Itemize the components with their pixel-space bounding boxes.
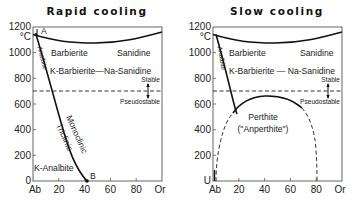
- x-tick-40: 40: [79, 184, 91, 195]
- x-tick-or: Or: [154, 184, 166, 195]
- label-k-barbierite: K-Barbierite — Na-Sanidine: [229, 66, 335, 76]
- y-tick-400: 400: [194, 124, 211, 135]
- label-perthite: Perthite: [248, 112, 278, 122]
- x-tick-80: 80: [131, 184, 143, 195]
- label-sanidine: Sanidine: [300, 48, 334, 58]
- label-k-analbite: K-Analbite: [34, 163, 74, 173]
- perthite-solvus-left-dashed: [216, 113, 233, 181]
- x-tick-20: 20: [53, 184, 65, 195]
- y-tick-800: 800: [194, 73, 211, 84]
- y-tick-200: 200: [14, 150, 31, 161]
- x-tick-60: 60: [105, 184, 117, 195]
- label-k-barbierite: K-Barbierite—Na-Sanidine: [50, 66, 151, 76]
- x-tick-60: 60: [285, 184, 297, 195]
- label-pseudostable: Pseudostable: [300, 98, 340, 105]
- chart-title-slow: Slow cooling: [230, 5, 324, 17]
- y-tick-600: 600: [194, 99, 211, 110]
- x-tick-or: Or: [334, 184, 346, 195]
- label-anperthite: ("Anperthite"): [237, 124, 288, 134]
- y-tick-200: 200: [194, 150, 211, 161]
- x-tick-ab: Ab: [209, 184, 222, 195]
- y-unit: °C: [200, 31, 211, 42]
- y-tick-400: 400: [14, 124, 31, 135]
- rapid-cooling-chart: Rapid cooling 1200 °C 1000 800 600 400 2…: [9, 5, 166, 195]
- point-b: [85, 179, 89, 183]
- label-barbierite: Barbierite: [51, 48, 88, 58]
- x-tick-80: 80: [311, 184, 323, 195]
- label-sanidine: Sanidine: [117, 48, 151, 58]
- label-analbite: Analbite: [217, 46, 228, 71]
- label-b: B: [90, 171, 96, 181]
- x-tick-ab: Ab: [29, 184, 42, 195]
- label-barbierite: Barbierite: [229, 48, 266, 58]
- label-stable: Stable: [141, 76, 160, 83]
- phase-diagrams: Rapid cooling 1200 °C 1000 800 600 400 2…: [0, 0, 360, 203]
- point-a: [34, 33, 37, 36]
- perthite-solvus-solid: [233, 96, 302, 113]
- label-analbite: Analbite: [37, 46, 50, 71]
- chart-title-rapid: Rapid cooling: [46, 5, 147, 17]
- y-tick-600: 600: [14, 99, 31, 110]
- perthite-solvus-right-dashed: [302, 108, 317, 181]
- y-tick-1000: 1000: [189, 47, 212, 58]
- slow-cooling-chart: Slow cooling 1200 °C 1000 800 600 400 20…: [189, 5, 346, 195]
- y-axis: 1200 °C 1000 800 600 400 200 U: [189, 21, 216, 186]
- y-axis: 1200 °C 1000 800 600 400 200 0: [9, 21, 36, 186]
- label-a: A: [41, 26, 47, 36]
- x-tick-20: 20: [233, 184, 245, 195]
- y-tick-1000: 1000: [9, 47, 32, 58]
- y-tick-800: 800: [14, 73, 31, 84]
- label-stable: Stable: [321, 76, 340, 83]
- solvus-top-curve: [213, 32, 342, 43]
- x-tick-40: 40: [259, 184, 271, 195]
- label-pseudostable: Pseudostable: [120, 98, 160, 105]
- y-unit: °C: [20, 31, 31, 42]
- solvus-top-curve: [33, 32, 162, 43]
